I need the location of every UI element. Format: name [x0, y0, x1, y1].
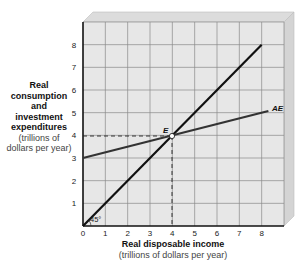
x-title: Real disposable income	[83, 239, 263, 250]
y-tick-label: 2	[72, 177, 77, 186]
x-tick-label: 5	[192, 229, 197, 238]
x-tick-labels: 012345678	[81, 229, 265, 238]
y-title-line: expenditures	[0, 122, 78, 133]
x-tick-label: 2	[125, 229, 130, 238]
point-e-label: E	[163, 126, 169, 135]
angle-label: 45°	[90, 215, 101, 224]
x-tick-label: 4	[170, 229, 175, 238]
x-tick-label: 0	[81, 229, 86, 238]
ae-label: AE	[271, 104, 284, 113]
y-title-line: Real	[0, 80, 78, 91]
y-title-line: investment	[0, 112, 78, 123]
x-subtitle: (trillions of dollars per year)	[83, 250, 263, 261]
x-tick-label: 3	[148, 229, 153, 238]
y-title-line: consumption	[0, 91, 78, 102]
y-axis-title: Real consumption and investment expendit…	[0, 80, 78, 154]
frame-side	[284, 12, 294, 226]
x-tick-label: 7	[237, 229, 242, 238]
x-tick-label: 1	[103, 229, 108, 238]
x-tick-label: 6	[215, 229, 220, 238]
y-tick-label: 7	[72, 63, 77, 72]
x-axis-title: Real disposable income (trillions of dol…	[83, 239, 263, 260]
frame-top	[83, 12, 294, 22]
point-e	[169, 133, 174, 138]
y-subtitle-line: (trillions of	[0, 133, 78, 144]
y-subtitle-line: dollars per year)	[0, 143, 78, 154]
y-tick-label: 8	[72, 41, 77, 50]
y-tick-label: 1	[72, 199, 77, 208]
y-title-line: and	[0, 101, 78, 112]
x-tick-label: 8	[259, 229, 264, 238]
y-tick-label: 3	[72, 154, 77, 163]
